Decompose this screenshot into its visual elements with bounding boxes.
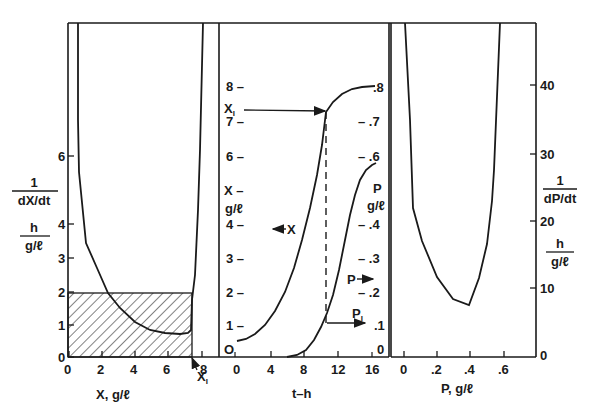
svg-text:4 –: 4 – <box>226 217 244 232</box>
svg-text:12: 12 <box>331 362 345 377</box>
svg-text:40: 40 <box>540 78 554 93</box>
svg-text:– .4: – .4 <box>358 217 380 232</box>
svg-text:16: 16 <box>365 362 379 377</box>
svg-text:.6: .6 <box>498 362 509 377</box>
right-x-axis-title: P, g/ℓ <box>441 381 473 396</box>
svg-text:.1: .1 <box>374 318 385 333</box>
middle-left-axis-title-2: g/ℓ <box>225 201 243 216</box>
right-curve-1-over-dPdt <box>405 23 500 305</box>
right-y-tick-labels: 40 30 20 10 0 <box>540 78 554 363</box>
middle-panel: 8 – 7 – 6 – 4 – 3 – 2 – 1 – O .8 – .7 – … <box>219 23 389 401</box>
svg-text:4: 4 <box>130 362 138 377</box>
mid-x1-label: XI <box>224 101 235 118</box>
right-panel: 40 30 20 10 0 0 .2 .4 .6 P, g/ℓ 1 dP/dt … <box>391 23 577 396</box>
left-x-axis-title: X, g/ℓ <box>96 387 130 402</box>
hatched-region <box>68 293 192 357</box>
svg-text:2: 2 <box>97 362 104 377</box>
left-curve-1-over-dXdt <box>78 23 203 334</box>
svg-text:.2: .2 <box>431 362 442 377</box>
middle-x-axis-title: t–h <box>292 386 312 401</box>
left-panel: 0 1 2 3 4 6 0 2 4 6 8 XI X, g/ℓ <box>12 23 219 402</box>
left-x-tick-labels: 0 2 4 6 8 <box>64 362 207 377</box>
x1-arrow <box>244 110 325 111</box>
middle-left-axis-title-1: X – <box>224 183 244 198</box>
svg-text:30: 30 <box>540 147 554 162</box>
left-y-tick-labels: 0 1 2 3 4 6 <box>58 149 66 365</box>
svg-text:4: 4 <box>267 362 275 377</box>
y-tick-3: 3 <box>58 251 65 266</box>
svg-text:O: O <box>224 342 234 357</box>
svg-text:1: 1 <box>30 175 37 190</box>
middle-x-ticks <box>271 351 338 357</box>
svg-text:g/ℓ: g/ℓ <box>25 238 43 253</box>
svg-text:20: 20 <box>540 214 554 229</box>
right-y-ticks <box>530 85 536 288</box>
svg-text:dX/dt: dX/dt <box>18 193 51 208</box>
svg-text:6: 6 <box>163 362 170 377</box>
middle-left-y-ticks: 8 – 7 – 6 – 4 – 3 – 2 – 1 – O <box>224 79 244 357</box>
left-y-axis-title: 1 dX/dt h g/ℓ <box>12 175 58 253</box>
svg-text:– .3: – .3 <box>358 251 380 266</box>
svg-text:2 –: 2 – <box>226 285 244 300</box>
middle-x-tick-labels: 0 4 8 12 16 <box>233 362 379 377</box>
svg-text:8 –: 8 – <box>226 79 244 94</box>
p-series-label: P <box>347 272 356 287</box>
svg-text:– .6: – .6 <box>358 149 380 164</box>
svg-text:– .7: – .7 <box>358 114 380 129</box>
svg-text:g/ℓ: g/ℓ <box>551 254 569 269</box>
svg-text:8: 8 <box>300 362 307 377</box>
right-x-tick-labels: 0 .2 .4 .6 <box>400 362 509 377</box>
svg-text:h: h <box>30 220 38 235</box>
svg-text:10: 10 <box>540 281 554 296</box>
y-tick-2: 2 <box>58 285 65 300</box>
svg-text:7 –: 7 – <box>226 114 244 129</box>
figure-canvas: 0 1 2 3 4 6 0 2 4 6 8 XI X, g/ℓ <box>0 0 594 408</box>
svg-text:0: 0 <box>540 348 547 363</box>
svg-text:– .2: – .2 <box>358 285 380 300</box>
middle-right-axis-title-2: g/ℓ <box>367 198 385 213</box>
svg-text:0: 0 <box>64 362 71 377</box>
svg-text:6 –: 6 – <box>226 149 244 164</box>
x-series-label: X <box>287 222 296 237</box>
mid-p1-label: PI <box>352 306 363 323</box>
svg-text:0: 0 <box>400 362 407 377</box>
svg-text:0: 0 <box>233 362 240 377</box>
y-tick-1: 1 <box>58 318 65 333</box>
curve-X <box>237 86 375 341</box>
middle-right-axis-title-1: P <box>373 181 382 196</box>
svg-text:dP/dt: dP/dt <box>544 191 577 206</box>
y-tick-6: 6 <box>58 149 65 164</box>
svg-text:.8: .8 <box>373 80 384 95</box>
svg-text:.4: .4 <box>464 362 476 377</box>
y-tick-4: 4 <box>58 217 66 232</box>
svg-text:1 –: 1 – <box>226 318 244 333</box>
right-x-ticks <box>404 351 504 357</box>
svg-text:0: 0 <box>377 342 384 357</box>
svg-text:3 –: 3 – <box>226 251 244 266</box>
svg-text:1: 1 <box>556 173 563 188</box>
svg-text:h: h <box>556 236 564 251</box>
